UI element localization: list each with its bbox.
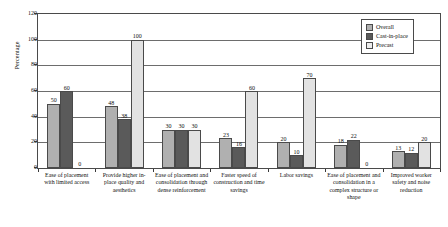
bar-castinplace: 22 — [347, 140, 360, 168]
bar-precast: 30 — [188, 130, 201, 169]
legend-label-precast: Precast — [376, 41, 393, 50]
x-category-label: Ease of placement and consolidation in a… — [325, 172, 382, 202]
y-tick-label: 60 — [7, 87, 37, 93]
bar-group-bars: 303030 — [153, 14, 210, 168]
legend-swatch-overall-icon — [366, 24, 373, 31]
bar-overall: 48 — [105, 106, 118, 168]
legend-item-precast: Precast — [366, 41, 408, 50]
bar-value-label: 23 — [223, 131, 229, 139]
bar-chart: Percentage 120100806040200 5060048381003… — [0, 0, 448, 227]
y-tick-label: 40 — [7, 113, 37, 119]
bar-value-label: 60 — [64, 84, 70, 92]
legend-swatch-cast-in-place-icon — [366, 33, 373, 40]
bar-group-bars: 231660 — [210, 14, 267, 168]
bar-value-label: 12 — [408, 145, 414, 153]
bar-castinplace: 10 — [290, 155, 303, 168]
bar-value-label: 0 — [78, 160, 81, 168]
bar-overall: 30 — [162, 130, 175, 169]
x-category-label: Improved worker safety and noise reducti… — [383, 172, 440, 202]
bar-value-label: 18 — [338, 137, 344, 145]
x-axis-labels: Ease of placement with limited accessPro… — [38, 172, 440, 202]
bar-castinplace: 60 — [60, 91, 73, 168]
y-tick-label: 80 — [7, 61, 37, 67]
bar-value-label: 60 — [249, 84, 255, 92]
bar-overall: 23 — [219, 138, 232, 168]
bar-value-label: 30 — [192, 122, 198, 130]
bar-group: 303030 — [153, 14, 210, 168]
bar-overall: 18 — [334, 145, 347, 168]
x-category-label: Provide higher in-place quality and aest… — [95, 172, 152, 202]
bar-value-label: 16 — [236, 140, 242, 148]
legend-item-cast-in-place: Cast-in-place — [366, 32, 408, 41]
legend-label-cast-in-place: Cast-in-place — [376, 32, 408, 41]
x-category-label: Ease of placement and consolidation thro… — [153, 172, 210, 202]
bar-group: 201070 — [268, 14, 325, 168]
bar-castinplace: 16 — [232, 147, 245, 168]
legend: Overall Cast-in-place Precast — [361, 19, 414, 54]
bar-group: 4838100 — [95, 14, 152, 168]
bar-precast: 70 — [303, 78, 316, 168]
bar-value-label: 13 — [395, 144, 401, 152]
y-tick-label: 100 — [7, 36, 37, 42]
y-tick-label: 0 — [7, 164, 37, 170]
bar-overall: 13 — [392, 151, 405, 168]
y-tick-label: 20 — [7, 138, 37, 144]
bar-group: 50600 — [38, 14, 95, 168]
bar-overall: 20 — [277, 142, 290, 168]
x-category-label: Ease of placement with limited access — [38, 172, 95, 202]
bar-value-label: 100 — [133, 32, 142, 40]
bar-value-label: 20 — [280, 135, 286, 143]
bar-castinplace: 12 — [405, 153, 418, 168]
bar-value-label: 22 — [351, 132, 357, 140]
bar-precast: 60 — [245, 91, 258, 168]
y-tick-label: 120 — [7, 10, 37, 16]
y-axis: 120100806040200 — [0, 13, 37, 169]
bar-value-label: 0 — [365, 160, 368, 168]
bar-group: 231660 — [210, 14, 267, 168]
bar-group-bars: 4838100 — [95, 14, 152, 168]
bar-value-label: 38 — [121, 112, 127, 120]
bar-precast: 20 — [418, 142, 431, 168]
bar-castinplace: 38 — [118, 119, 131, 168]
bar-value-label: 10 — [293, 148, 299, 156]
bar-value-label: 50 — [51, 96, 57, 104]
legend-swatch-precast-icon — [366, 42, 373, 49]
bar-value-label: 48 — [108, 99, 114, 107]
bar-castinplace: 30 — [175, 130, 188, 169]
x-category-label: Labor savings — [268, 172, 325, 202]
bar-overall: 50 — [47, 104, 60, 168]
bar-value-label: 20 — [421, 135, 427, 143]
bar-group-bars: 201070 — [268, 14, 325, 168]
x-tick-mark — [440, 169, 441, 172]
x-category-label: Faster speed of construction and time sa… — [210, 172, 267, 202]
legend-item-overall: Overall — [366, 23, 408, 32]
bar-group-bars: 50600 — [38, 14, 95, 168]
legend-label-overall: Overall — [376, 23, 394, 32]
bar-value-label: 30 — [179, 122, 185, 130]
bar-value-label: 30 — [166, 122, 172, 130]
bar-value-label: 70 — [306, 71, 312, 79]
bar-precast: 100 — [131, 40, 144, 168]
